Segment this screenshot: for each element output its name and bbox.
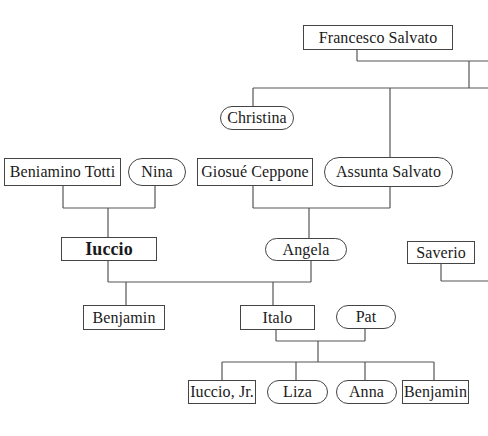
- person-nina: Nina: [128, 158, 186, 186]
- person-iuccio: Iuccio: [61, 237, 157, 261]
- person-francesco-salvato: Francesco Salvato: [303, 25, 453, 50]
- person-angela: Angela: [265, 238, 347, 261]
- person-giosue-ceppone: Giosué Ceppone: [197, 158, 313, 186]
- person-benjamin-grandchild: Benjamin: [402, 380, 469, 404]
- person-saverio: Saverio: [407, 241, 475, 264]
- family-tree-diagram: Francesco Salvato Christina Beniamino To…: [0, 0, 488, 436]
- person-italo: Italo: [240, 305, 315, 330]
- connector-lines: [0, 0, 488, 436]
- person-beniamino-totti: Beniamino Totti: [4, 158, 121, 186]
- person-liza: Liza: [267, 380, 328, 404]
- person-assunta-salvato: Assunta Salvato: [324, 157, 453, 187]
- person-christina: Christina: [220, 106, 294, 130]
- person-iuccio-jr: Iuccio, Jr.: [188, 380, 256, 404]
- person-benjamin: Benjamin: [83, 305, 165, 330]
- person-anna: Anna: [336, 380, 397, 404]
- person-pat: Pat: [336, 305, 396, 329]
